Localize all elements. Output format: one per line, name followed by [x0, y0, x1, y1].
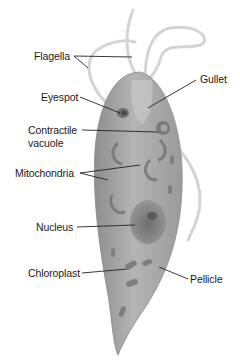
label-contractile-vacuole-line1: Contractile	[28, 124, 77, 136]
label-flagella: Flagella	[34, 50, 70, 62]
nucleus	[130, 200, 166, 244]
label-gullet: Gullet	[200, 73, 227, 85]
label-chloroplast: Chloroplast	[28, 267, 80, 279]
label-pellicle: Pellicle	[190, 273, 222, 285]
label-nucleus: Nucleus	[36, 221, 73, 233]
label-mitochondria: Mitochondria	[15, 167, 74, 179]
label-contractile-vacuole-line2: vacuole	[28, 137, 64, 149]
label-eyespot: Eyespot	[41, 91, 78, 103]
